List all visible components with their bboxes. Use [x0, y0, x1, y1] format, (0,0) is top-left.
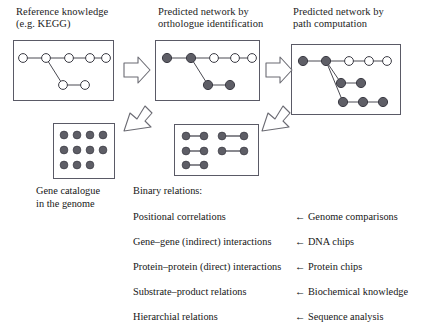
flow-arrow-right-2 [266, 57, 292, 83]
relation-item: Substrate–product relations [133, 286, 281, 299]
panel3-title: Predicted network by path computation [293, 6, 384, 30]
gene-catalogue-caption: Gene catalogue in the genome [36, 185, 100, 210]
panel-reference-knowledge [13, 40, 114, 101]
source-item: ← Biochemical knowledge [295, 286, 408, 299]
source-item: ← Protein chips [295, 261, 408, 274]
relation-item: Protein–protein (direct) interactions [133, 261, 281, 274]
panel2-title: Predicted network by orthologue identifi… [158, 6, 263, 30]
source-item: ← DNA chips [295, 236, 408, 249]
relation-item: Gene–gene (indirect) interactions [133, 236, 281, 249]
source-item: ← Sequence analysis [295, 311, 408, 324]
panel-orthologue-identification [155, 40, 260, 101]
panel-gene-catalogue [53, 123, 115, 179]
source-item: ← Genome comparisons [295, 211, 408, 224]
relation-item: Positional correlations [133, 211, 281, 224]
flow-arrow-diag-1 [124, 106, 152, 131]
data-sources-list: ← Genome comparisons ← DNA chips ← Prote… [295, 198, 408, 326]
binary-relations-heading: Binary relations: [133, 185, 202, 198]
flow-arrow-diag-2 [262, 106, 290, 131]
panel-binary-relations [174, 124, 259, 176]
flow-arrow-right-1 [124, 57, 150, 83]
binary-relations-list: Positional correlations Gene–gene (indir… [133, 198, 281, 326]
panel-path-computation [291, 44, 401, 115]
panel1-title: Reference knowledge (e.g. KEGG) [16, 6, 108, 30]
relation-item: Hierarchial relations [133, 311, 281, 324]
